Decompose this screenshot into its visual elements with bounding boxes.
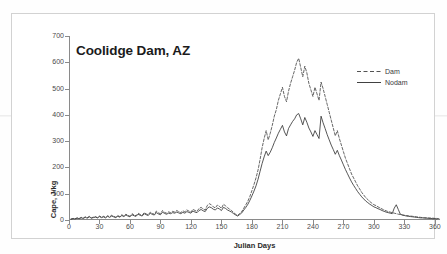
legend-label-dam: Dam	[385, 68, 400, 75]
x-tick-label: 210	[277, 223, 289, 230]
plot-area	[69, 36, 440, 220]
y-tick-label: 0	[30, 216, 64, 223]
x-tick-label: 180	[246, 223, 258, 230]
x-tick-label: 60	[126, 223, 134, 230]
y-tick-mark	[65, 167, 69, 168]
y-tick-mark	[65, 141, 69, 142]
x-tick-mark	[99, 220, 100, 224]
chart-figure: Coolidge Dam, AZ Cape, J/kg 010020030040…	[0, 0, 447, 254]
x-tick-mark	[130, 220, 131, 224]
x-tick-label: 120	[185, 223, 197, 230]
y-tick-label: 600	[30, 58, 64, 65]
x-tick-label: 300	[368, 223, 380, 230]
y-tick-label: 100	[30, 190, 64, 197]
y-tick-label: 500	[30, 85, 64, 92]
x-tick-mark	[160, 220, 161, 224]
x-tick-label: 270	[338, 223, 350, 230]
x-tick-mark	[252, 220, 253, 224]
y-tick-mark	[65, 89, 69, 90]
series-line-nodam	[71, 114, 437, 220]
x-tick-label: 90	[157, 223, 165, 230]
y-tick-label: 700	[30, 32, 64, 39]
series-canvas	[70, 36, 441, 220]
legend-label-nodam: Nodam	[385, 79, 408, 86]
x-tick-mark	[374, 220, 375, 224]
x-tick-label: 150	[216, 223, 228, 230]
x-tick-label: 240	[307, 223, 319, 230]
y-axis-tick-labels: 0100200300400500600700	[26, 14, 64, 254]
x-tick-mark	[282, 220, 283, 224]
x-tick-mark	[343, 220, 344, 224]
x-tick-label: 360	[429, 223, 441, 230]
x-tick-mark	[221, 220, 222, 224]
chart-legend: Dam Nodam	[357, 66, 408, 88]
legend-item-nodam: Nodam	[357, 77, 408, 88]
y-tick-mark	[65, 62, 69, 63]
y-tick-mark	[65, 194, 69, 195]
x-tick-mark	[404, 220, 405, 224]
x-tick-mark	[435, 220, 436, 224]
legend-item-dam: Dam	[357, 66, 408, 77]
x-tick-label: 330	[399, 223, 411, 230]
legend-dashed-swatch-icon	[357, 68, 381, 75]
x-tick-label: 0	[67, 223, 71, 230]
y-tick-label: 200	[30, 163, 64, 170]
y-tick-mark	[65, 36, 69, 37]
y-tick-label: 400	[30, 111, 64, 118]
x-tick-label: 30	[96, 223, 104, 230]
y-tick-label: 300	[30, 137, 64, 144]
x-tick-mark	[191, 220, 192, 224]
x-tick-mark	[313, 220, 314, 224]
x-axis-tick-labels: 0306090120150180210240270300330360	[69, 223, 440, 237]
x-tick-mark	[69, 220, 70, 224]
legend-solid-swatch-icon	[357, 79, 381, 86]
chart-frame: Coolidge Dam, AZ Cape, J/kg 010020030040…	[11, 13, 435, 239]
y-tick-mark	[65, 115, 69, 116]
x-axis-title: Julian Days	[69, 241, 440, 250]
